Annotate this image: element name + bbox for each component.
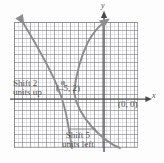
shift-left-annotation: Shift 5 units left [62, 131, 94, 150]
y-axis-label: y [101, 2, 105, 10]
vertex-point-label: (–5, 2) [56, 84, 80, 93]
origin-point-label: (0, 0) [118, 100, 138, 109]
shift-left-line2: units left [62, 140, 94, 149]
shift-up-annotation: Shift 2 units up [13, 79, 42, 98]
shift-up-line2: units up [13, 88, 42, 97]
x-axis-label: x [152, 92, 156, 100]
hyperbola-figure: x y (0, 0) (–5, 2) Shift 2 units up Shif… [0, 0, 164, 163]
